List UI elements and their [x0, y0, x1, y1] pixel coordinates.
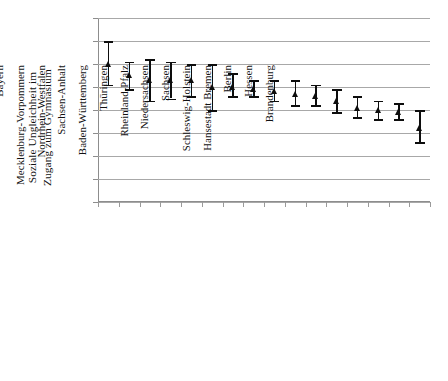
x-axis-tick-label: Niedersachsen: [139, 65, 150, 225]
x-axis-tick-label: Sachsen: [160, 65, 171, 225]
error-bar-cap-upper: [374, 101, 384, 103]
x-axis-tick-label: Hessen: [243, 65, 254, 225]
x-axis-tick: [306, 202, 307, 207]
x-axis-tick: [326, 202, 327, 207]
data-point-marker: [395, 109, 401, 115]
error-bar-cap-upper: [104, 41, 114, 43]
x-axis-tick-label: Mecklenburg-Vorpommern: [15, 65, 26, 225]
x-axis-tick: [347, 202, 348, 207]
plot-area: 00,010,020,030,040,050,060,070,08 Saarla…: [98, 18, 430, 202]
data-point-marker: [292, 91, 298, 97]
x-axis-tick-label: Sachsen-Anhalt: [56, 65, 67, 225]
data-point-marker: [333, 98, 339, 104]
error-bar-cap-upper: [332, 89, 342, 91]
error-bar-cap-lower: [374, 119, 384, 121]
gridline: [98, 41, 430, 42]
x-axis-tick-label: Rheinland-Pfalz: [119, 65, 130, 225]
error-bar-cap-upper: [353, 96, 363, 98]
x-axis-tick: [389, 202, 390, 207]
x-axis-tick: [285, 202, 286, 207]
x-axis-tick-label: Baden-Württemberg: [77, 65, 88, 225]
error-bar-cap-lower: [353, 117, 363, 119]
chart-figure: Soziale Ungleichheit im Zugang zum Gymna…: [0, 0, 448, 381]
error-bar-cap-upper: [166, 62, 176, 64]
x-axis-tick-label: Berlin: [222, 65, 233, 225]
x-axis-tick: [368, 202, 369, 207]
error-bar-cap-lower: [415, 142, 425, 144]
data-point-marker: [312, 93, 318, 99]
x-axis-tick-label: Hansestadt Bremen: [202, 65, 213, 225]
data-point-marker: [416, 125, 422, 131]
error-bar-cap-upper: [291, 80, 301, 82]
data-point-marker: [354, 105, 360, 111]
error-bar-cap-upper: [145, 59, 155, 61]
error-bar-cap-lower: [332, 112, 342, 114]
x-axis-tick: [430, 202, 431, 207]
data-point-marker: [375, 107, 381, 113]
error-bar-cap-lower: [311, 105, 321, 107]
error-bar-cap-upper: [311, 85, 321, 87]
error-bar-cap-upper: [125, 62, 135, 64]
error-bar-cap-lower: [394, 119, 404, 121]
x-axis-tick-label: Schleswig-Holstein: [181, 65, 192, 225]
x-axis-tick-label: Bayern: [0, 65, 5, 225]
x-axis-tick: [409, 202, 410, 207]
gridline: [98, 18, 430, 19]
y-axis-tick: [93, 41, 98, 42]
error-bar-cap-lower: [291, 105, 301, 107]
error-bar-cap-upper: [415, 110, 425, 112]
error-bar-cap-upper: [394, 103, 404, 105]
y-axis-tick: [93, 18, 98, 19]
x-axis-tick-label: Thüringen: [98, 65, 109, 225]
x-axis-tick-label: Nordrhein-Westfalen: [36, 65, 47, 225]
x-axis-tick-label: Brandenburg: [264, 65, 275, 225]
